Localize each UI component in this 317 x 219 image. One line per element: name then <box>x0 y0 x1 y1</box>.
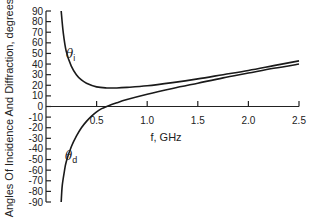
x-tick-label: 2.5 <box>292 115 306 126</box>
x-axis-title: f, GHz <box>150 131 181 143</box>
x-tick-label: 1.0 <box>140 115 154 126</box>
y-tick-label: -10 <box>29 112 44 123</box>
y-tick-label: -60 <box>29 165 44 176</box>
x-tick-label: 2.0 <box>241 115 255 126</box>
y-tick-label: -80 <box>29 186 44 197</box>
y-tick-label: -40 <box>29 143 44 154</box>
y-tick-label: 30 <box>32 69 44 80</box>
theta-d-label-sub: d <box>72 155 77 165</box>
y-tick-label: 0 <box>37 101 43 112</box>
theta-i-label-sub: i <box>73 53 75 63</box>
x-axis-ticks: 0.51.01.52.02.5 <box>90 101 307 126</box>
y-tick-label: -70 <box>29 175 44 186</box>
theta-i-label: θi <box>66 47 75 63</box>
y-tick-label: 70 <box>32 27 44 38</box>
y-tick-label: 50 <box>32 48 44 59</box>
y-tick-label: -50 <box>29 154 44 165</box>
y-tick-label: -90 <box>29 197 44 208</box>
y-tick-label: 40 <box>32 59 44 70</box>
y-tick-label: 90 <box>32 6 44 17</box>
y-tick-label: 60 <box>32 37 44 48</box>
y-tick-label: 20 <box>32 80 44 91</box>
y-tick-label: 80 <box>32 16 44 27</box>
x-tick-label: 1.5 <box>191 115 205 126</box>
chart: Angles Of Incidence And Diffraction, deg… <box>0 0 317 219</box>
y-tick-label: 10 <box>32 90 44 101</box>
theta-d-label: θd <box>65 149 77 165</box>
y-tick-label: -20 <box>29 122 44 133</box>
y-axis-title-group: Angles Of Incidence And Diffraction, deg… <box>3 0 15 217</box>
theta-i-curve <box>61 11 299 88</box>
y-tick-label: -30 <box>29 133 44 144</box>
y-axis-title: Angles Of Incidence And Diffraction, deg… <box>3 0 15 217</box>
